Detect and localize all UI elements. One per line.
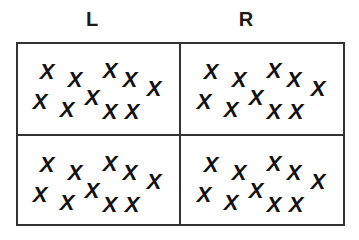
x-mark: X (125, 194, 140, 216)
x-mark: X (311, 78, 326, 100)
x-mark: X (267, 101, 282, 123)
x-mark: X (224, 192, 239, 214)
x-mark: X (287, 69, 302, 91)
x-mark: X (60, 192, 75, 214)
x-mark: X (311, 171, 326, 193)
x-mark: X (103, 194, 118, 216)
x-mark: X (40, 61, 55, 83)
x-mark: X (197, 184, 212, 206)
x-mark: X (147, 171, 162, 193)
x-mark: X (289, 194, 304, 216)
x-mark: X (33, 91, 48, 113)
x-mark: X (204, 154, 219, 176)
x-mark: X (197, 91, 212, 113)
x-mark: X (85, 87, 100, 109)
x-mark: X (123, 162, 138, 184)
x-mark: X (85, 180, 100, 202)
x-mark: X (40, 154, 55, 176)
x-mark: X (123, 69, 138, 91)
x-mark: X (103, 101, 118, 123)
x-mark: X (267, 60, 282, 82)
x-mark: X (68, 69, 83, 91)
x-mark: X (147, 78, 162, 100)
column-label-right: R (239, 8, 253, 31)
x-mark: X (103, 153, 118, 175)
x-mark: X (267, 153, 282, 175)
x-mark: X (103, 60, 118, 82)
x-mark: X (249, 87, 264, 109)
x-mark: X (267, 194, 282, 216)
x-mark: X (289, 101, 304, 123)
x-mark: X (125, 101, 140, 123)
x-mark: X (287, 162, 302, 184)
x-mark: X (68, 162, 83, 184)
grid-divider-horizontal (16, 134, 345, 136)
column-label-left: L (86, 8, 98, 31)
x-mark: X (60, 99, 75, 121)
x-mark: X (232, 162, 247, 184)
x-mark: X (33, 184, 48, 206)
x-mark: X (204, 61, 219, 83)
x-mark: X (224, 99, 239, 121)
x-mark: X (232, 69, 247, 91)
x-mark: X (249, 180, 264, 202)
